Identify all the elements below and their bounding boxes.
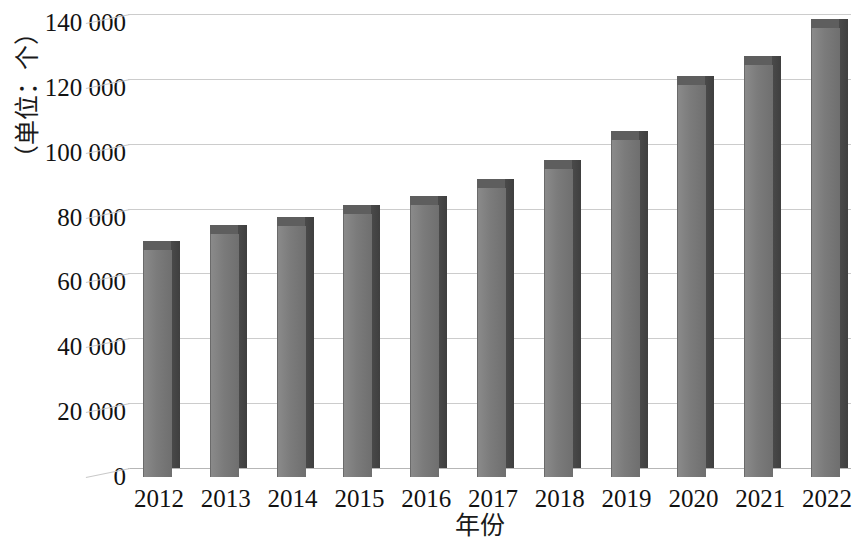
bar-side-face <box>238 225 247 468</box>
bar-front-face <box>143 250 172 477</box>
bar-2020[interactable] <box>677 76 714 477</box>
bar-side-face <box>371 205 380 468</box>
y-axis-tick-label: 60 000 <box>8 269 126 294</box>
bar-2018[interactable] <box>544 160 581 477</box>
x-axis-tick-label: 2021 <box>722 484 798 514</box>
bar-2012[interactable] <box>143 241 180 477</box>
bar-top-face <box>811 19 839 28</box>
bar-side-face <box>438 196 447 468</box>
y-axis-tick-label: 100 000 <box>8 140 126 165</box>
bar-2019[interactable] <box>611 131 648 477</box>
bar-front-face <box>744 65 773 477</box>
bar-side-face <box>505 179 514 468</box>
x-axis-tick-label: 2017 <box>455 484 531 514</box>
x-axis-tick-label: 2019 <box>589 484 665 514</box>
bar-2021[interactable] <box>744 56 781 477</box>
bar-side-face <box>305 217 314 468</box>
bar-top-face <box>410 196 438 205</box>
bar-front-face <box>277 226 306 477</box>
bar-top-face <box>544 160 572 169</box>
bar-2013[interactable] <box>210 225 247 477</box>
x-axis-tick-label: 2020 <box>655 484 731 514</box>
gridline <box>128 14 851 15</box>
gridline <box>128 79 851 80</box>
bar-front-face <box>611 140 640 477</box>
bar-2015[interactable] <box>343 205 380 477</box>
y-axis-tick-label: 0 <box>8 464 126 489</box>
x-axis-tick-label: 2016 <box>388 484 464 514</box>
y-axis-tick-label: 120 000 <box>8 75 126 100</box>
bar-2022[interactable] <box>811 19 848 477</box>
y-axis-tick-label: 40 000 <box>8 334 126 359</box>
x-axis-tick-label: 2015 <box>321 484 397 514</box>
y-axis-tick-labels: 020 00040 00060 00080 000100 000120 0001… <box>0 0 126 500</box>
bar-top-face <box>343 205 371 214</box>
x-axis-tick-label: 2013 <box>188 484 264 514</box>
bar-top-face <box>210 225 238 234</box>
bar-2017[interactable] <box>477 179 514 477</box>
bar-front-face <box>410 205 439 477</box>
bar-side-face <box>639 131 648 468</box>
bar-side-face <box>772 56 781 468</box>
bar-top-face <box>744 56 772 65</box>
y-axis-tick-label: 80 000 <box>8 205 126 230</box>
bar-front-face <box>343 214 372 477</box>
bar-side-face <box>572 160 581 468</box>
y-axis-tick-label: 20 000 <box>8 399 126 424</box>
gridline <box>128 144 851 145</box>
x-axis-title: 年份 <box>455 512 505 540</box>
bar-front-face <box>677 85 706 477</box>
bar-top-face <box>143 241 171 250</box>
bar-2014[interactable] <box>277 217 314 477</box>
bar-side-face <box>839 19 848 468</box>
bar-top-face <box>277 217 305 226</box>
bar-front-face <box>544 169 573 477</box>
y-axis-tick-label: 140 000 <box>8 10 126 35</box>
bar-front-face <box>210 234 239 477</box>
bar-front-face <box>811 28 840 477</box>
bar-top-face <box>677 76 705 85</box>
x-axis-tick-label: 2014 <box>255 484 331 514</box>
bar-side-face <box>705 76 714 468</box>
bar-front-face <box>477 188 506 477</box>
x-axis-tick-label: 2022 <box>789 484 856 514</box>
bar-top-face <box>477 179 505 188</box>
x-axis-tick-label: 2012 <box>121 484 197 514</box>
bar-side-face <box>171 241 180 468</box>
bar-2016[interactable] <box>410 196 447 477</box>
plot-area <box>128 0 851 490</box>
bar-top-face <box>611 131 639 140</box>
x-axis-tick-label: 2018 <box>522 484 598 514</box>
